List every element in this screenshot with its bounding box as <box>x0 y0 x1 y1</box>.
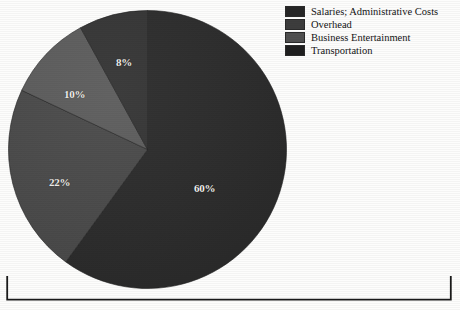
slice-label-business-entertainment: 10% <box>64 88 85 100</box>
bracket-rule <box>6 276 452 301</box>
legend-label-salaries: Salaries; Administrative Costs <box>311 5 438 18</box>
legend-swatch-icon-overhead <box>285 19 305 30</box>
legend-label-business-entertainment: Business Entertainment <box>311 31 410 44</box>
chart-legend: Salaries; Administrative Costs Overhead … <box>285 5 457 57</box>
legend-label-overhead: Overhead <box>311 18 352 31</box>
pie-svg <box>8 10 287 289</box>
legend-item-business-entertainment: Business Entertainment <box>285 31 457 44</box>
slice-label-salaries: 60% <box>194 182 215 194</box>
pie-chart-graphic: 60% 22% 10% 8% <box>8 10 287 289</box>
legend-swatch-icon-transportation <box>285 45 305 56</box>
legend-item-salaries-administrative-costs: Salaries; Administrative Costs <box>285 5 457 18</box>
legend-item-overhead: Overhead <box>285 18 457 31</box>
legend-label-transportation: Transportation <box>311 44 372 57</box>
pie-chart-figure: 60% 22% 10% 8% Salaries; Administrative … <box>0 0 460 310</box>
slice-label-transportation: 8% <box>116 56 132 68</box>
slice-label-overhead: 22% <box>49 176 70 188</box>
legend-item-transportation: Transportation <box>285 44 457 57</box>
legend-swatch-icon-business-entertainment <box>285 32 305 43</box>
bracket-rule-icon <box>6 276 452 301</box>
legend-swatch-icon-salaries <box>285 6 305 17</box>
